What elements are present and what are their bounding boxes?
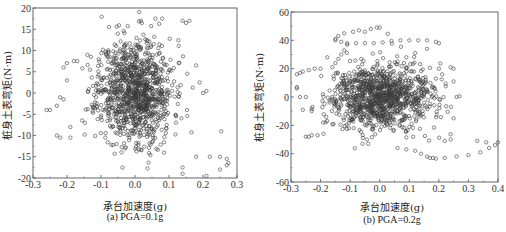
data-point <box>399 39 402 42</box>
y-tick-label: 20 <box>21 3 31 14</box>
data-point <box>166 76 169 79</box>
data-point <box>433 104 436 107</box>
data-point <box>201 91 204 94</box>
data-point <box>399 45 402 48</box>
data-point <box>348 59 351 62</box>
data-point <box>205 89 208 92</box>
data-point <box>426 98 429 101</box>
data-point <box>195 64 198 67</box>
data-point <box>198 81 201 84</box>
data-point <box>122 142 125 145</box>
data-point <box>340 53 343 56</box>
data-point <box>343 49 346 52</box>
y-tick-label: -40 <box>276 148 289 159</box>
data-point <box>186 114 189 117</box>
data-point <box>405 56 408 59</box>
data-points <box>295 26 500 160</box>
data-point <box>104 136 107 139</box>
data-point <box>174 121 177 124</box>
data-point <box>181 172 184 175</box>
data-point <box>325 115 328 118</box>
x-tick-label: 0.1 <box>403 183 416 194</box>
data-point <box>96 118 99 121</box>
y-tick-label: -20 <box>18 173 31 184</box>
data-point <box>119 133 122 136</box>
data-point <box>335 112 338 115</box>
y-tick-label: 15 <box>21 24 31 35</box>
data-point <box>381 66 384 69</box>
data-point <box>376 59 379 62</box>
data-point <box>348 71 351 74</box>
data-point <box>438 103 441 106</box>
data-point <box>363 42 366 45</box>
data-point <box>165 123 168 126</box>
data-point <box>339 123 342 126</box>
data-point <box>487 146 490 149</box>
data-point <box>181 55 184 58</box>
data-point <box>98 60 101 63</box>
data-point <box>84 108 87 111</box>
data-point <box>172 80 175 83</box>
data-point <box>208 155 211 158</box>
data-point <box>181 19 184 22</box>
data-point <box>405 136 408 139</box>
y-tick-label: -60 <box>276 177 289 188</box>
data-point <box>188 19 191 22</box>
data-point <box>343 32 346 35</box>
data-point <box>140 21 143 24</box>
x-tick-label: 0.0 <box>373 183 386 194</box>
data-point <box>179 84 182 87</box>
data-point <box>162 151 165 154</box>
data-point <box>319 67 322 70</box>
y-tick-label: 0 <box>284 92 289 103</box>
data-point <box>166 80 169 83</box>
data-point <box>146 167 149 170</box>
data-point <box>220 130 223 133</box>
data-point <box>218 168 221 171</box>
data-point <box>354 42 357 45</box>
data-point <box>177 44 180 47</box>
data-point <box>69 125 72 128</box>
data-point <box>437 136 440 139</box>
data-point <box>151 140 154 143</box>
data-point <box>123 31 126 34</box>
data-point <box>99 131 102 134</box>
data-point <box>353 147 356 150</box>
data-point <box>328 89 331 92</box>
data-point <box>396 146 399 149</box>
data-point <box>455 155 458 158</box>
data-point <box>100 63 103 66</box>
data-point <box>100 84 103 87</box>
data-point <box>72 59 75 62</box>
data-point <box>440 78 443 81</box>
data-point <box>97 58 100 61</box>
x-tick-label: 0.3 <box>231 179 244 190</box>
data-point <box>445 105 448 108</box>
data-point <box>441 73 444 76</box>
data-point <box>107 25 110 28</box>
data-point <box>88 68 91 71</box>
data-point <box>360 57 363 60</box>
data-point <box>169 58 172 61</box>
data-point <box>411 135 414 138</box>
data-point <box>142 133 145 136</box>
data-point <box>92 93 95 96</box>
data-point <box>443 156 446 159</box>
data-point <box>142 127 145 130</box>
data-point <box>345 127 348 130</box>
caption-a: (a) PGA=0.1g <box>85 211 185 222</box>
data-point <box>96 64 99 67</box>
y-tick-label: 0 <box>26 88 31 99</box>
data-point <box>363 30 366 33</box>
data-point <box>322 132 325 135</box>
x-tick-label: 0.4 <box>492 183 505 194</box>
data-point <box>184 21 187 24</box>
data-point <box>372 42 375 45</box>
data-point <box>371 52 374 55</box>
data-point <box>168 37 171 40</box>
data-point <box>107 60 110 63</box>
data-point <box>180 117 183 120</box>
data-point <box>153 35 156 38</box>
data-point <box>59 136 62 139</box>
x-tick-label: -0.1 <box>93 179 109 190</box>
